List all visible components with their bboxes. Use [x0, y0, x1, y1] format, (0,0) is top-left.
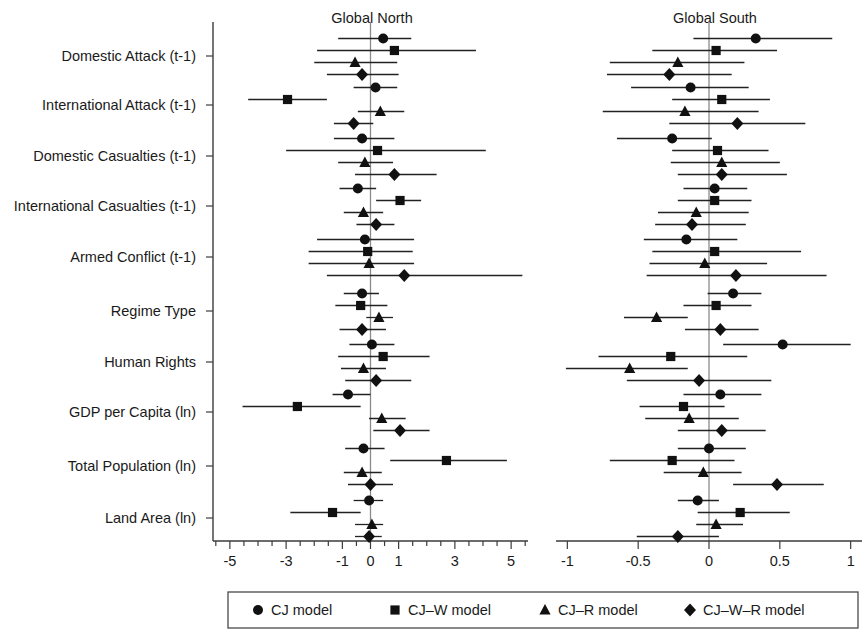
estimate-point — [355, 519, 383, 529]
marker-circle — [357, 134, 367, 144]
estimate-point — [354, 496, 384, 506]
estimate-point — [678, 444, 746, 454]
estimate-row — [644, 235, 827, 283]
panel-global-south: Global South-1-0.500.51 — [556, 10, 862, 569]
estimate-row — [617, 134, 787, 182]
y-axis-label: Land Area (ln) — [105, 510, 196, 526]
estimate-point — [678, 496, 719, 506]
estimate-point — [566, 363, 688, 373]
legend-entry[interactable]: CJ model — [253, 602, 332, 618]
estimate-point — [390, 456, 507, 465]
chart-legend: CJ modelCJ–W modelCJ–R modelCJ–W–R model — [228, 592, 858, 628]
estimate-point — [723, 340, 851, 350]
estimate-point — [599, 352, 748, 361]
marker-square — [390, 46, 399, 55]
estimate-row — [309, 235, 523, 283]
marker-square — [373, 146, 382, 155]
marker-triangle — [359, 157, 370, 167]
x-axis-tick-label: -0.5 — [626, 553, 651, 569]
estimate-point — [355, 168, 437, 181]
marker-diamond — [365, 478, 377, 491]
marker-square — [710, 196, 719, 205]
marker-circle — [360, 235, 370, 245]
legend-entry[interactable]: CJ–W model — [390, 602, 491, 618]
estimate-point — [610, 57, 745, 67]
estimate-point — [345, 444, 384, 454]
estimate-point — [631, 83, 749, 93]
marker-diamond — [731, 117, 743, 130]
marker-circle — [751, 34, 761, 44]
estimate-row — [624, 289, 761, 337]
estimate-point — [344, 207, 383, 217]
marker-square — [717, 95, 726, 104]
estimate-point — [356, 218, 394, 231]
marker-triangle — [366, 519, 377, 529]
estimate-row — [314, 34, 476, 82]
estimate-row — [640, 390, 766, 438]
estimate-point — [617, 134, 712, 144]
legend-label: CJ model — [271, 602, 332, 618]
marker-square — [328, 508, 337, 517]
marker-square — [668, 456, 677, 465]
estimate-point — [693, 34, 832, 44]
estimate-point — [685, 323, 759, 336]
estimate-row — [655, 184, 751, 232]
estimate-point — [607, 68, 732, 81]
y-axis-label: Total Population (ln) — [68, 458, 196, 474]
marker-circle — [343, 390, 353, 400]
estimate-point — [696, 519, 743, 529]
estimate-row — [340, 184, 422, 232]
estimate-point — [334, 117, 373, 130]
estimate-point — [678, 196, 752, 205]
estimate-point — [369, 413, 406, 423]
estimate-point — [376, 196, 421, 205]
legend-entry[interactable]: CJ–R model — [539, 602, 637, 618]
x-axis-tick-label: -1 — [336, 553, 349, 569]
estimate-point — [624, 312, 688, 322]
marker-triangle — [356, 467, 367, 477]
estimate-point — [344, 467, 382, 477]
estimate-point — [314, 57, 397, 67]
marker-diamond — [394, 424, 406, 437]
marker-square — [736, 508, 745, 517]
legend-entry[interactable]: CJ–W–R model — [684, 602, 805, 618]
marker-circle — [715, 390, 725, 400]
x-axis-tick-label: 0.5 — [770, 553, 790, 569]
estimate-point — [664, 467, 742, 477]
estimate-point — [684, 390, 762, 400]
x-axis-tick-label: -5 — [223, 553, 236, 569]
marker-diamond — [716, 168, 728, 181]
estimate-point — [248, 95, 327, 104]
marker-square — [679, 402, 688, 411]
marker-square — [713, 146, 722, 155]
coefficient-plot-svg: Global NorthDomestic Attack (t-1)Interna… — [0, 0, 867, 632]
marker-circle — [357, 289, 367, 299]
marker-square — [666, 352, 675, 361]
marker-circle — [693, 496, 703, 506]
marker-square — [379, 352, 388, 361]
marker-diamond — [714, 323, 726, 336]
estimate-point — [644, 235, 738, 245]
estimate-point — [658, 207, 749, 217]
estimate-point — [327, 269, 522, 282]
estimate-point — [672, 95, 770, 104]
marker-diamond — [356, 323, 368, 336]
estimate-point — [334, 134, 394, 144]
marker-diamond — [730, 269, 742, 282]
estimate-point — [317, 235, 414, 245]
estimate-point — [684, 301, 752, 310]
marker-triangle — [358, 363, 369, 373]
legend-label: CJ–W model — [408, 602, 491, 618]
marker-diamond — [686, 218, 698, 231]
estimate-point — [309, 247, 413, 256]
marker-square — [710, 247, 719, 256]
estimate-point — [708, 289, 762, 299]
estimate-point — [333, 390, 371, 400]
panel-title: Global South — [673, 10, 757, 26]
marker-diamond — [388, 168, 400, 181]
marker-triangle — [651, 312, 662, 322]
marker-circle — [704, 444, 714, 454]
estimate-point — [733, 478, 824, 491]
marker-triangle — [684, 413, 695, 423]
y-axis-label: International Casualties (t-1) — [14, 198, 196, 214]
